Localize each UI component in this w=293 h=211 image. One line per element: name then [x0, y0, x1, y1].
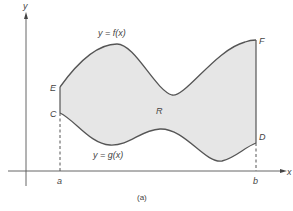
- bound-label-a: a: [57, 176, 62, 186]
- lower-curve-label: y = g(x): [92, 150, 123, 160]
- point-label-d: D: [259, 132, 266, 142]
- bound-label-b: b: [253, 176, 258, 186]
- upper-curve-label: y = f(x): [97, 28, 126, 38]
- x-axis-label: x: [286, 167, 292, 177]
- y-axis-arrow-icon: [24, 12, 28, 19]
- region-label-r: R: [156, 106, 163, 116]
- region-between-curves-diagram: y x a b E C F D y = f(x) y = g(x) R (a): [0, 0, 293, 211]
- point-label-e: E: [50, 83, 57, 93]
- point-label-f: F: [259, 36, 265, 46]
- x-axis-arrow-icon: [280, 169, 287, 173]
- region-r-fill: [60, 40, 256, 161]
- y-axis-label: y: [22, 1, 28, 11]
- point-label-c: C: [50, 109, 57, 119]
- figure-caption: (a): [137, 193, 147, 202]
